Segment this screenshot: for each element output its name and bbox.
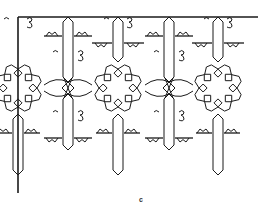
- scroll-motif: [27, 18, 32, 28]
- knot-arc: [44, 91, 92, 96]
- diamond-motif: [0, 84, 7, 92]
- scroll-motif: [154, 111, 159, 113]
- square-motif: [104, 95, 110, 101]
- scroll-motif: [154, 51, 159, 53]
- long-vertical-bar: [63, 94, 73, 150]
- knot-arc: [145, 91, 193, 96]
- square-motif: [225, 74, 231, 80]
- scroll-motif: [179, 111, 184, 121]
- scroll-motif: [127, 18, 132, 28]
- diamond-motif: [114, 99, 122, 107]
- diamond-motif: [199, 84, 207, 92]
- scroll-motif: [78, 111, 83, 121]
- diamond-motif: [129, 84, 137, 92]
- long-vertical-bar: [164, 94, 174, 150]
- lower-vertical-bar: [113, 114, 123, 175]
- long-vertical-bar: [164, 17, 174, 82]
- scroll-motif: [53, 51, 58, 53]
- octagonal-star: [195, 65, 241, 111]
- scroll-motif: [227, 18, 232, 28]
- diamond-motif: [29, 84, 37, 92]
- square-motif: [204, 95, 210, 101]
- square-motif: [204, 74, 210, 80]
- diamond-motif: [229, 84, 237, 92]
- long-vertical-bar: [63, 17, 73, 82]
- scroll-motif: [179, 51, 184, 61]
- square-motif: [125, 74, 131, 80]
- square-motif: [225, 95, 231, 101]
- square-motif: [25, 74, 31, 80]
- knot-arc: [145, 80, 193, 85]
- diamond-motif: [214, 99, 222, 107]
- square-motif: [125, 95, 131, 101]
- scroll-motif: [4, 18, 9, 20]
- square-motif: [4, 95, 10, 101]
- square-motif: [4, 74, 10, 80]
- octagonal-star: [95, 65, 141, 111]
- short-vertical-bar: [113, 17, 123, 62]
- diamond-motif: [214, 69, 222, 77]
- scroll-motif: [204, 18, 209, 20]
- scroll-motif: [104, 18, 109, 20]
- square-motif: [104, 74, 110, 80]
- diamond-motif: [114, 69, 122, 77]
- diamond-motif: [99, 84, 107, 92]
- scroll-motif: [53, 111, 58, 113]
- short-vertical-bar: [213, 17, 223, 62]
- geometric-pattern-drawing: [0, 0, 262, 214]
- square-motif: [25, 95, 31, 101]
- scroll-motif: [78, 51, 83, 61]
- figure-caption: c: [139, 196, 143, 203]
- knot-arc: [44, 80, 92, 85]
- lower-vertical-bar: [213, 114, 223, 175]
